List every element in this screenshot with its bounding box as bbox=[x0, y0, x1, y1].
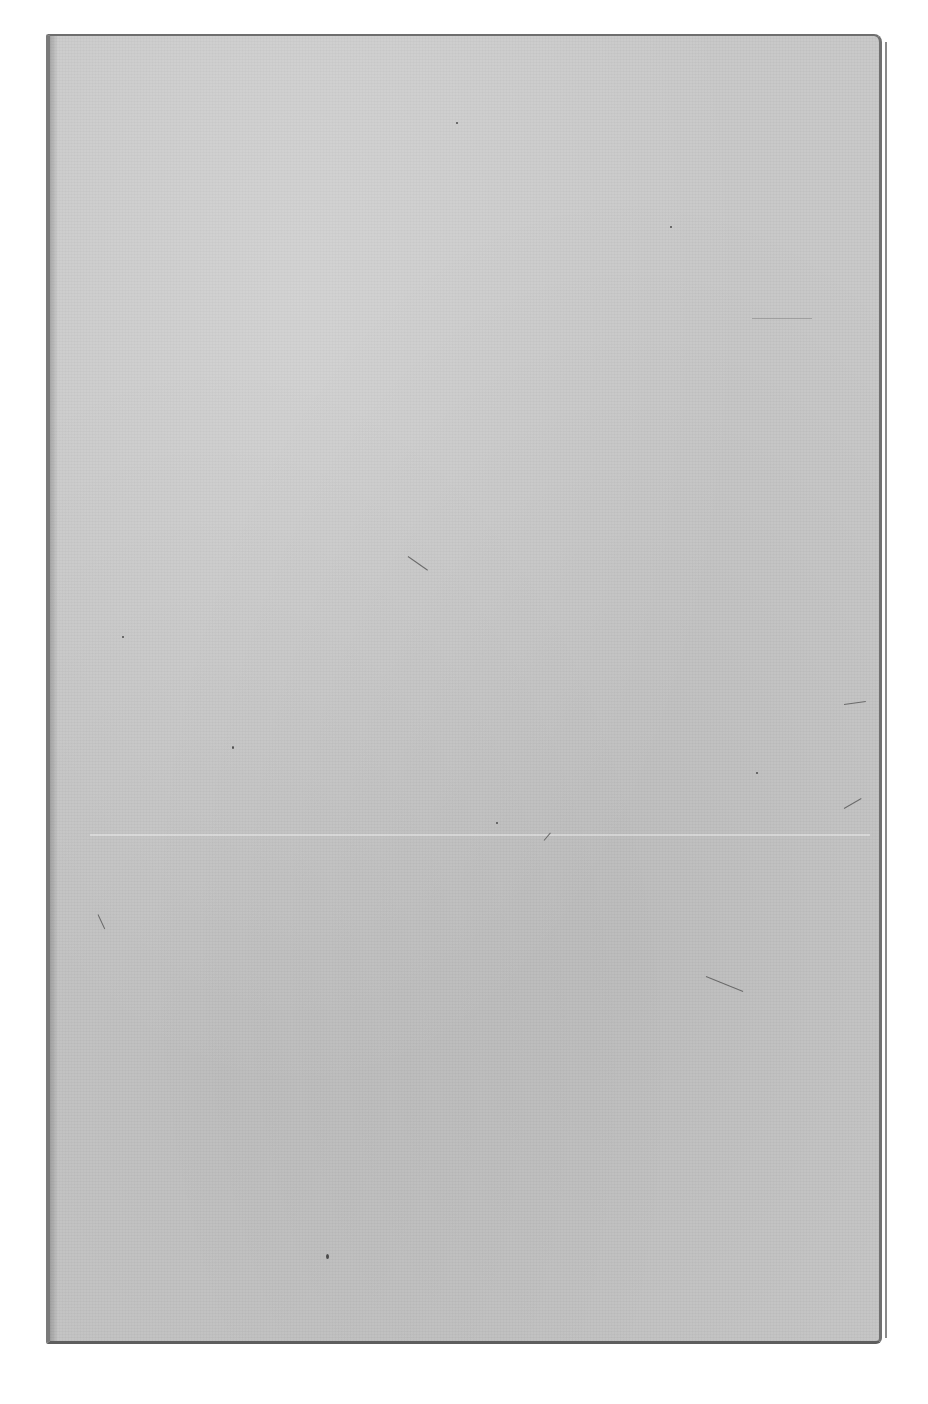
scratch bbox=[706, 976, 743, 992]
speck bbox=[496, 822, 498, 824]
spine-shadow bbox=[50, 36, 58, 1341]
fold-line bbox=[90, 834, 870, 836]
scratch bbox=[844, 701, 866, 705]
scratch bbox=[98, 914, 106, 929]
speck bbox=[232, 746, 234, 749]
scratch bbox=[752, 318, 812, 319]
scratch bbox=[408, 556, 428, 571]
speck bbox=[456, 122, 458, 124]
speck bbox=[670, 226, 672, 228]
scratch bbox=[844, 798, 862, 809]
scanned-page bbox=[0, 0, 928, 1404]
page-edge bbox=[881, 42, 887, 1338]
speck bbox=[122, 636, 124, 638]
book-cover bbox=[46, 34, 882, 1344]
speck bbox=[756, 772, 758, 774]
speck bbox=[326, 1254, 329, 1259]
